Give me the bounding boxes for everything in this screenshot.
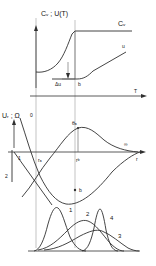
panel2-peak-marker [77, 127, 79, 129]
panel3-curve-label-3: 3 [118, 233, 122, 239]
panel2-y-axis-label: Uᵣ ; Ω [2, 112, 20, 119]
panel3-curve-label-2: 2 [86, 211, 90, 217]
figure-svg: Cᵥ ; U(T) Cᵥ u Δu b T [0, 0, 156, 266]
panel2-x-arrow [140, 150, 146, 154]
panel2-point-label-b: b [79, 187, 82, 193]
panel3-curve-label-4: 4 [110, 215, 114, 221]
figure-container: Cᵥ ; U(T) Cᵥ u Δu b T [0, 0, 156, 266]
panel1-y-axis-label: Cᵥ ; U(T) [41, 10, 68, 18]
panel2-peak-label: θₐ [72, 120, 77, 126]
panel2-infinity-label: ∞ [124, 141, 128, 147]
panel1-curve-cv-rise [36, 31, 75, 72]
panel3-curve-1 [34, 208, 86, 251]
panel1-curve-u-rise [77, 52, 126, 79]
panel-3-distributions: 1 2 4 3 [28, 207, 140, 251]
panel2-x-axis-label: r [136, 156, 138, 162]
panel1-x-axis-label: T [134, 88, 137, 94]
panel3-curve-3 [44, 230, 139, 251]
panel1-delta-label: Δu [55, 81, 61, 87]
panel1-y-arrow [34, 25, 38, 31]
panel1-delta-arrow-head [66, 73, 70, 79]
panel2-branch-label-1: 1 [18, 155, 21, 161]
panel1-x-arrow [141, 94, 147, 98]
panel1-curve-label-cv: Cᵥ [118, 20, 126, 27]
panel2-origin-label: 0 [30, 112, 33, 118]
panel2-point-b-marker [74, 189, 76, 191]
panel2-y-arrow [12, 119, 16, 125]
panel2-tick-label-rb: rᵇ [76, 157, 80, 163]
panel2-branch-label-2: 2 [5, 173, 8, 179]
panel2-tick-label-ra: rₐ [38, 157, 42, 163]
panel3-curve-label-1: 1 [69, 207, 73, 213]
panel1-curve-label-u: u [122, 43, 125, 49]
panel-2-potential-energy: Uᵣ ; Ω 0 θₐ rₐ rᵇ ∞ r 1 2 b [2, 112, 146, 205]
panel1-point-label-b: b [78, 81, 81, 87]
